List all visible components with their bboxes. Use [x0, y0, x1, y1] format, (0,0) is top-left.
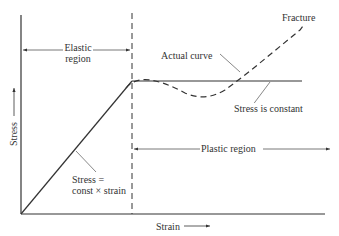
linear-law-leader	[76, 151, 96, 172]
elastic-label-line2: region	[63, 53, 93, 64]
elastic-label-line1: Elastic	[63, 42, 93, 53]
plastic-region-label: Plastic region	[201, 143, 256, 154]
stress-constant-label: Stress is constant	[234, 103, 303, 114]
x-axis-label: Strain	[156, 221, 180, 232]
linear-law-line2: const × strain	[72, 185, 126, 196]
actual-curve	[126, 26, 303, 97]
fracture-label: Fracture	[282, 12, 315, 23]
stress-strain-diagram	[0, 0, 339, 236]
actual-curve-label: Actual curve	[161, 50, 212, 61]
elastic-region-label: Elastic region	[63, 42, 93, 64]
y-axis-label: Stress	[8, 122, 19, 146]
actual-curve-leader	[220, 54, 240, 72]
linear-law-label: Stress = const × strain	[72, 174, 126, 196]
linear-law-line1: Stress =	[72, 174, 126, 185]
